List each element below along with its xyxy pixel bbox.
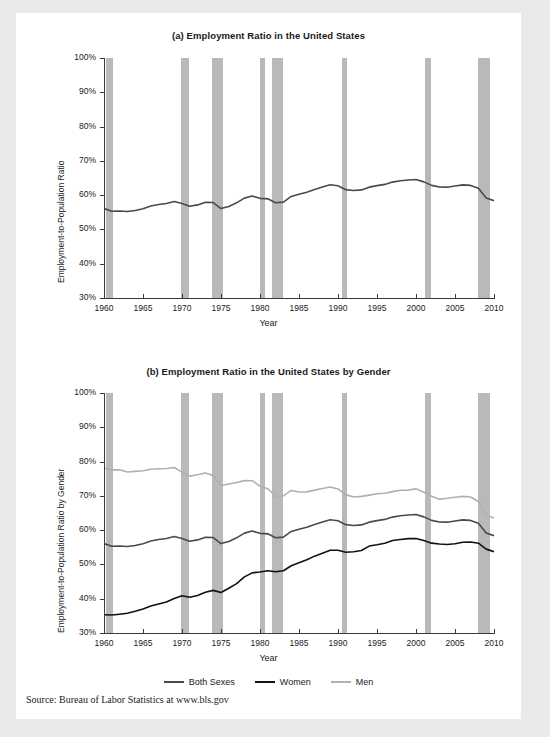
y-tick-label: 80% bbox=[56, 121, 96, 131]
x-tick-label: 1975 bbox=[201, 638, 241, 648]
x-tick-label: 1990 bbox=[318, 638, 358, 648]
y-tick-label: 50% bbox=[56, 223, 96, 233]
x-tick-mark bbox=[455, 294, 456, 298]
x-tick-label: 1965 bbox=[123, 303, 163, 313]
x-tick-mark bbox=[104, 629, 105, 633]
series-line-women bbox=[104, 539, 494, 615]
y-tick-label: 100% bbox=[56, 52, 96, 62]
x-tick-mark bbox=[182, 629, 183, 633]
y-tick-mark bbox=[100, 264, 104, 265]
y-tick-label: 100% bbox=[56, 387, 96, 397]
chart-legend: Both SexesWomenMen bbox=[16, 675, 521, 689]
x-tick-mark bbox=[455, 629, 456, 633]
series-line-both-sexes bbox=[104, 179, 494, 211]
y-tick-label: 70% bbox=[56, 490, 96, 500]
x-tick-label: 2000 bbox=[396, 303, 436, 313]
x-tick-mark bbox=[416, 294, 417, 298]
legend-swatch-icon bbox=[331, 681, 351, 684]
x-tick-label: 2000 bbox=[396, 638, 436, 648]
x-tick-label: 1980 bbox=[240, 303, 280, 313]
y-tick-label: 90% bbox=[56, 421, 96, 431]
x-tick-mark bbox=[299, 629, 300, 633]
chart-b-y-axis bbox=[104, 393, 105, 634]
chart-b-canvas bbox=[104, 393, 494, 633]
y-tick-mark bbox=[100, 127, 104, 128]
x-tick-mark bbox=[143, 294, 144, 298]
y-tick-label: 60% bbox=[56, 524, 96, 534]
x-tick-label: 1970 bbox=[162, 303, 202, 313]
x-tick-label: 1975 bbox=[201, 303, 241, 313]
x-tick-label: 1995 bbox=[357, 638, 397, 648]
legend-swatch-icon bbox=[164, 681, 184, 684]
chart-a-x-axis-label: Year bbox=[16, 318, 521, 328]
legend-label: Women bbox=[280, 677, 311, 687]
x-tick-mark bbox=[143, 629, 144, 633]
chart-b-plot-area: 100%90%80%70%60%50%40%30%196019651970197… bbox=[16, 343, 521, 673]
x-tick-label: 1965 bbox=[123, 638, 163, 648]
y-tick-mark bbox=[100, 92, 104, 93]
y-tick-label: 40% bbox=[56, 258, 96, 268]
x-tick-label: 1970 bbox=[162, 638, 202, 648]
series-group bbox=[104, 393, 494, 633]
series-line-both-sexes bbox=[104, 514, 494, 546]
y-tick-label: 40% bbox=[56, 593, 96, 603]
legend-item: Both Sexes bbox=[164, 677, 235, 687]
x-tick-mark bbox=[494, 629, 495, 633]
x-tick-label: 1960 bbox=[84, 303, 124, 313]
chart-a-plot-area: 100%90%80%70%60%50%40%30%196019651970197… bbox=[16, 13, 521, 333]
x-tick-mark bbox=[260, 629, 261, 633]
x-tick-label: 2010 bbox=[474, 638, 514, 648]
x-tick-mark bbox=[338, 629, 339, 633]
y-tick-mark bbox=[100, 496, 104, 497]
y-tick-mark bbox=[100, 393, 104, 394]
x-tick-label: 1960 bbox=[84, 638, 124, 648]
legend-item: Men bbox=[331, 677, 374, 687]
y-tick-label: 30% bbox=[56, 627, 96, 637]
x-tick-mark bbox=[377, 294, 378, 298]
x-tick-mark bbox=[221, 294, 222, 298]
chart-b-x-axis-label: Year bbox=[16, 653, 521, 663]
x-tick-label: 1990 bbox=[318, 303, 358, 313]
chart-b-x-axis bbox=[104, 633, 495, 634]
y-tick-label: 50% bbox=[56, 558, 96, 568]
x-tick-mark bbox=[338, 294, 339, 298]
x-tick-label: 1985 bbox=[279, 303, 319, 313]
y-tick-label: 80% bbox=[56, 456, 96, 466]
y-tick-mark bbox=[100, 195, 104, 196]
series-group bbox=[104, 58, 494, 298]
figure-panel: (a) Employment Ratio in the United State… bbox=[16, 13, 521, 719]
legend-swatch-icon bbox=[255, 681, 275, 684]
y-tick-mark bbox=[100, 58, 104, 59]
y-tick-label: 90% bbox=[56, 86, 96, 96]
y-tick-mark bbox=[100, 161, 104, 162]
chart-a-y-axis bbox=[104, 58, 105, 299]
x-tick-label: 2005 bbox=[435, 638, 475, 648]
legend-label: Both Sexes bbox=[189, 677, 235, 687]
y-tick-mark bbox=[100, 229, 104, 230]
y-tick-mark bbox=[100, 633, 104, 634]
x-tick-mark bbox=[260, 294, 261, 298]
series-line-men bbox=[104, 468, 494, 518]
x-tick-label: 1995 bbox=[357, 303, 397, 313]
chart-panel-a: (a) Employment Ratio in the United State… bbox=[16, 13, 521, 333]
y-tick-mark bbox=[100, 599, 104, 600]
x-tick-label: 1985 bbox=[279, 638, 319, 648]
y-tick-mark bbox=[100, 298, 104, 299]
x-tick-label: 1980 bbox=[240, 638, 280, 648]
x-tick-mark bbox=[182, 294, 183, 298]
y-tick-mark bbox=[100, 530, 104, 531]
x-tick-mark bbox=[377, 629, 378, 633]
source-note: Source: Bureau of Labor Statistics at ww… bbox=[26, 694, 229, 705]
y-tick-mark bbox=[100, 564, 104, 565]
y-tick-label: 30% bbox=[56, 292, 96, 302]
x-tick-mark bbox=[299, 294, 300, 298]
x-tick-label: 2010 bbox=[474, 303, 514, 313]
y-tick-label: 70% bbox=[56, 155, 96, 165]
legend-label: Men bbox=[356, 677, 374, 687]
y-tick-label: 60% bbox=[56, 189, 96, 199]
x-tick-mark bbox=[104, 294, 105, 298]
y-tick-mark bbox=[100, 462, 104, 463]
legend-item: Women bbox=[255, 677, 311, 687]
x-tick-mark bbox=[221, 629, 222, 633]
y-tick-mark bbox=[100, 427, 104, 428]
